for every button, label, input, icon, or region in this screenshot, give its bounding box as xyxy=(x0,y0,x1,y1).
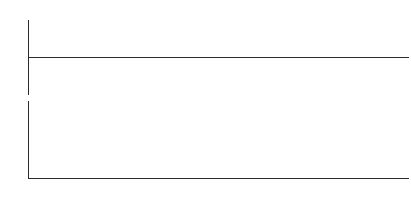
bar-chart-zero-line xyxy=(28,57,409,58)
line-chart-x-axis-line xyxy=(28,178,409,179)
line-chart-y-axis-line xyxy=(28,101,29,178)
bar-chart-panel xyxy=(0,0,411,96)
dual-panel-chart xyxy=(0,0,411,216)
line-series-svg xyxy=(0,96,411,216)
line-chart-panel xyxy=(0,96,411,216)
